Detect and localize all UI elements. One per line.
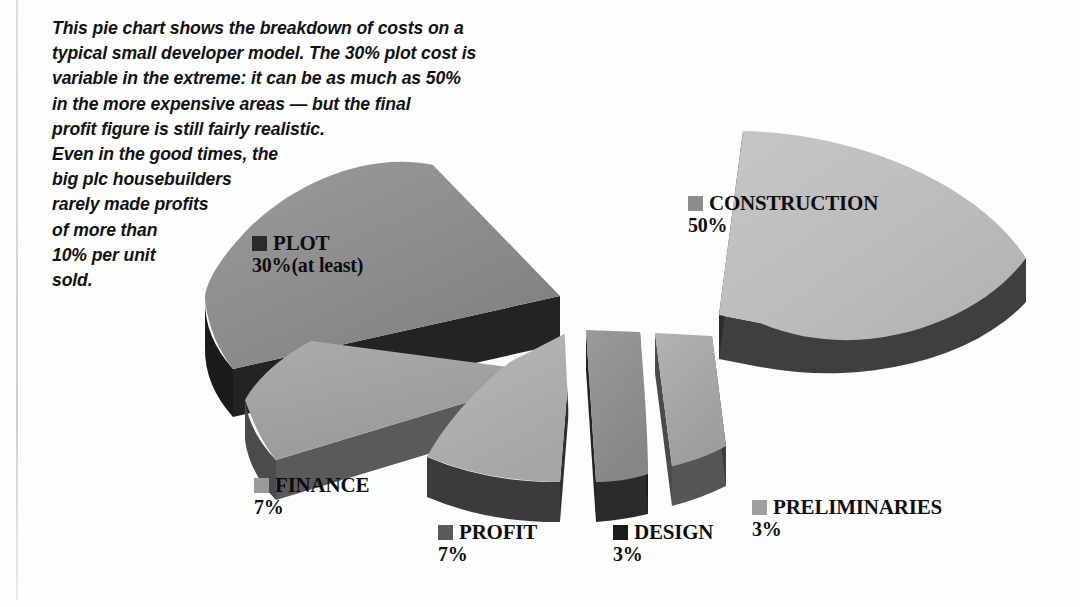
slice-label-construction-row: CONSTRUCTION xyxy=(688,192,878,214)
slice-label-preliminaries-row: PRELIMINARIES xyxy=(752,496,942,518)
slice-label-construction-name: CONSTRUCTION xyxy=(709,192,878,214)
slice-label-finance: FINANCE 7% xyxy=(254,474,369,519)
legend-swatch-preliminaries-icon xyxy=(752,500,767,515)
slice-label-profit-row: PROFIT xyxy=(438,521,537,543)
slice-label-plot-row: PLOT xyxy=(252,232,363,254)
slice-label-preliminaries-value: 3% xyxy=(752,518,942,541)
legend-swatch-design-icon xyxy=(613,525,628,540)
slice-label-plot-name: PLOT xyxy=(273,232,329,254)
slice-label-finance-row: FINANCE xyxy=(254,474,369,496)
chart-page: This pie chart shows the breakdown of co… xyxy=(0,0,1080,607)
slice-label-design-row: DESIGN xyxy=(613,521,713,543)
legend-swatch-finance-icon xyxy=(254,478,269,493)
slice-design-top xyxy=(586,330,648,482)
legend-swatch-plot-icon xyxy=(252,236,267,251)
slice-label-design: DESIGN 3% xyxy=(613,521,713,566)
slice-label-preliminaries: PRELIMINARIES 3% xyxy=(752,496,942,541)
slice-label-profit-value: 7% xyxy=(438,543,537,566)
slice-label-construction-value: 50% xyxy=(688,214,878,237)
slice-label-design-value: 3% xyxy=(613,543,713,566)
legend-swatch-construction-icon xyxy=(688,196,703,211)
slice-label-preliminaries-name: PRELIMINARIES xyxy=(773,496,942,518)
slice-label-finance-name: FINANCE xyxy=(275,474,369,496)
slice-label-design-name: DESIGN xyxy=(634,521,713,543)
legend-swatch-profit-icon xyxy=(438,525,453,540)
slice-label-profit: PROFIT 7% xyxy=(438,521,537,566)
slice-label-construction: CONSTRUCTION 50% xyxy=(688,192,878,237)
slice-label-plot-value: 30%(at least) xyxy=(252,254,363,277)
slice-label-finance-value: 7% xyxy=(254,496,369,519)
slice-label-plot: PLOT 30%(at least) xyxy=(252,232,363,277)
slice-label-profit-name: PROFIT xyxy=(459,521,537,543)
